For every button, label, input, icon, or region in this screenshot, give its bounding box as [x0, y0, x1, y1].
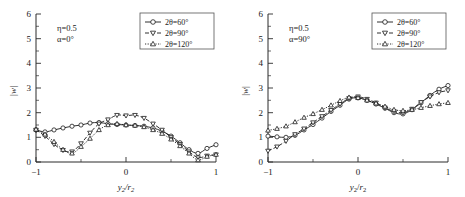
data-point-marker [214, 143, 218, 147]
data-point-marker [124, 114, 129, 118]
data-point-marker [446, 83, 450, 87]
y-tick-label: 4 [259, 58, 264, 68]
data-point-marker [266, 128, 271, 132]
chart-panel-left: 0 1 2 3 4 5 6 −1 0 1 |w| y2/r2 η=0.5 α=0… [0, 0, 232, 197]
plot-area-right: 0 1 2 3 4 5 6 −1 0 1 |w| y2/r2 η=0.5 α=9… [232, 0, 465, 197]
data-point-marker [419, 105, 424, 109]
y-tick-label: 3 [27, 83, 32, 93]
annotation-eta: η=0.5 [289, 23, 309, 33]
data-point-marker [205, 146, 209, 150]
series-line [268, 86, 448, 138]
y-ticks-left [36, 14, 41, 162]
chart-panel-right: 0 1 2 3 4 5 6 −1 0 1 |w| y2/r2 η=0.5 α=9… [232, 0, 465, 197]
data-point-marker [52, 139, 57, 143]
y-tick-label: 0 [27, 157, 32, 167]
x-ticks-left [36, 157, 216, 162]
legend-label: 2θ=120° [165, 40, 193, 49]
plot-area-left: 0 1 2 3 4 5 6 −1 0 1 |w| y2/r2 η=0.5 α=0… [0, 0, 232, 197]
data-point-marker [97, 128, 102, 132]
y-tick-label: 1 [27, 132, 32, 142]
y-axis-label: |w| [240, 86, 250, 96]
y-ticks-right [268, 14, 273, 162]
annotation-alpha: α=0° [57, 34, 74, 44]
data-point-marker [196, 151, 200, 155]
x-ticks-right [268, 157, 448, 162]
data-point-marker [266, 149, 271, 153]
data-point-marker [338, 98, 343, 102]
annotation-alpha: α=90° [289, 34, 310, 44]
data-point-marker [383, 20, 388, 25]
y-tick-label: 4 [27, 58, 32, 68]
data-point-marker [70, 124, 74, 128]
data-point-marker [401, 108, 406, 112]
data-point-marker [151, 122, 156, 126]
y-tick-label: 6 [27, 9, 32, 19]
legend-label: 2θ=60° [397, 18, 421, 27]
series-right [266, 83, 451, 153]
annotation-eta: η=0.5 [57, 23, 77, 33]
y-tick-label: 5 [259, 34, 264, 44]
data-point-marker [329, 103, 334, 107]
x-tick-label: 1 [214, 167, 219, 177]
x-tick-label: −1 [31, 167, 41, 177]
legend-left[interactable]: 2θ=60°2θ=90°2θ=120° [140, 13, 214, 49]
legend-label: 2θ=120° [397, 40, 425, 49]
data-point-marker [196, 158, 201, 162]
data-point-marker [115, 113, 120, 117]
data-point-marker [88, 121, 92, 125]
data-point-marker [284, 139, 289, 143]
data-point-marker [79, 123, 83, 127]
y-tick-label: 2 [259, 108, 264, 118]
data-point-marker [428, 103, 433, 107]
data-point-marker [284, 124, 289, 128]
data-point-marker [446, 100, 451, 104]
y-axis-label: |w| [8, 86, 18, 97]
y-tick-label: 5 [27, 34, 32, 44]
series-left [34, 113, 219, 161]
y-tick-label: 1 [259, 132, 264, 142]
data-point-marker [88, 136, 93, 140]
data-point-marker [293, 120, 298, 124]
x-axis-label: y2/r2 [117, 182, 135, 193]
legend-right[interactable]: 2θ=60°2θ=90°2θ=120° [372, 13, 446, 49]
y-tick-label: 6 [259, 9, 264, 19]
data-point-marker [446, 89, 451, 93]
data-point-marker [61, 126, 65, 130]
legend-label: 2θ=60° [165, 18, 189, 27]
legend-label: 2θ=90° [165, 29, 189, 38]
data-point-marker [142, 116, 147, 120]
y-tick-label: 3 [259, 83, 264, 93]
x-tick-label: 0 [124, 167, 129, 177]
data-point-marker [320, 107, 325, 111]
x-axis-label: y2/r2 [349, 182, 367, 193]
x-tick-label: −1 [263, 167, 273, 177]
legend-label: 2θ=90° [397, 29, 421, 38]
x-tick-label: 0 [356, 167, 361, 177]
data-point-marker [266, 134, 270, 138]
y-tick-label: 0 [259, 157, 264, 167]
data-point-marker [284, 135, 288, 139]
x-tick-label: 1 [446, 167, 451, 177]
figure-container: 0 1 2 3 4 5 6 −1 0 1 |w| y2/r2 η=0.5 α=0… [0, 0, 465, 197]
data-point-marker [52, 128, 56, 132]
data-point-marker [275, 135, 279, 139]
y-tick-label: 2 [27, 108, 32, 118]
data-point-marker [151, 20, 156, 25]
